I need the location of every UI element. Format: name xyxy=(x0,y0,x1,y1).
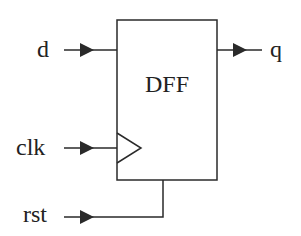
input-clk-arrow xyxy=(64,141,117,155)
clock-edge-triangle-icon xyxy=(117,133,141,163)
input-d-arrow xyxy=(64,43,117,57)
dff-block xyxy=(117,20,217,180)
dff-block-label: DFF xyxy=(145,71,189,97)
input-rst-arrow xyxy=(64,180,163,224)
input-clk-label: clk xyxy=(16,134,45,160)
output-q-arrow xyxy=(217,43,262,57)
dff-diagram: DFF d q clk rst xyxy=(0,0,301,236)
input-d-label: d xyxy=(37,36,49,62)
output-q-label: q xyxy=(270,36,282,62)
input-rst-label: rst xyxy=(23,201,47,227)
